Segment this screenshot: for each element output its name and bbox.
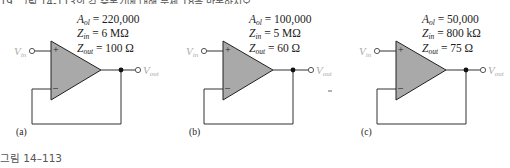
minus-sign: – [225,82,230,93]
zin-param: Zin = 800 kΩ [422,28,481,42]
vout-terminal [135,67,140,72]
vout-terminal [308,67,313,72]
vin-label: Vin [359,45,371,59]
vout-label: Vout [488,64,504,78]
vin-terminal [374,48,379,53]
opamp-parameters: Aol = 220,000 Zin = 6 MΩ Zout = 100 Ω [77,14,140,57]
plus-sign: + [53,44,59,55]
vout-label: Vout [316,64,332,78]
zin-param: Zin = 6 MΩ [77,28,140,42]
aol-param: Aol = 220,000 [77,14,140,28]
figure-caption: 그림 14–113 [0,150,62,165]
output-node-dot [291,68,296,73]
subfigure-label: (a) [16,127,27,137]
plus-sign: + [398,44,404,55]
vin-terminal [29,48,34,53]
subfigure-label: (c) [361,127,372,137]
opamp-parameters: Aol = 50,000 Zin = 800 kΩ Zout = 75 Ω [422,14,481,57]
zout-param: Zout = 60 Ω [249,43,312,57]
vin-label: Vin [14,45,26,59]
plus-sign: + [225,44,231,55]
opamp-parameters: Aol = 100,000 Zin = 5 MΩ Zout = 60 Ω [249,14,312,57]
output-node-dot [119,68,124,73]
vin-label: Vin [186,45,198,59]
minus-sign: – [398,82,403,93]
aol-param: Aol = 100,000 [249,14,312,28]
zin-param: Zin = 5 MΩ [249,28,312,42]
zout-param: Zout = 100 Ω [77,43,140,57]
vout-label: Vout [143,64,159,78]
vin-terminal [201,48,206,53]
aol-param: Aol = 50,000 [422,14,481,28]
circuit-c: + – Vin Vout Aol = 50,000 Zin = 800 kΩ Z… [345,0,510,145]
minus-sign: – [53,82,58,93]
circuit-a: + – Vin Vout Aol = 220,000 Zin = 6 MΩ Zo… [0,0,172,145]
vout-terminal [480,67,485,72]
circuit-b: + – Vin Vout Aol = 100,000 Zin = 5 MΩ Zo… [172,0,344,145]
zout-param: Zout = 75 Ω [422,43,481,57]
output-node-dot [464,68,469,73]
subfigure-label: (b) [189,127,200,137]
